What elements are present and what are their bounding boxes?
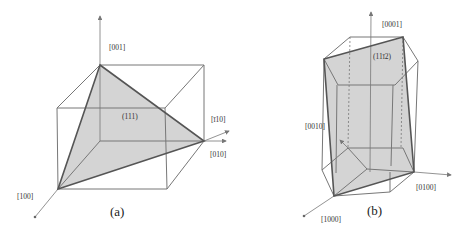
label-plane-111: (111) (122, 112, 138, 121)
axis-110 (204, 131, 229, 141)
label-110: [ī10] (211, 115, 226, 124)
label-plane-1122: (11ī2) (373, 52, 392, 61)
label-010: [010] (210, 150, 226, 159)
label-0100: [0100] (416, 183, 436, 192)
cubic-unit-cell-diagram: [001] (111) [ī10] [010] [100] (a) (17, 16, 229, 219)
caption-b: (b) (367, 203, 382, 218)
label-1000: [1000] (321, 215, 341, 224)
axis-100 (35, 189, 58, 217)
label-100: [100] (17, 192, 33, 201)
plane-1122-shading (324, 37, 414, 196)
crystal-planes-figure: [001] (111) [ī10] [010] [100] (a) (0, 0, 468, 236)
label-0001: [0001] (382, 20, 402, 29)
axis-0100 (414, 172, 451, 175)
hexagonal-unit-cell-diagram: [0001] (11ī2) [0010] [0100] [1000] (b) (303, 12, 451, 224)
label-0010: [0010] (305, 122, 325, 131)
caption-a: (a) (110, 204, 124, 219)
label-001: [001] (109, 43, 125, 52)
axis-1000 (304, 196, 334, 216)
plane-111-shading (58, 65, 204, 189)
